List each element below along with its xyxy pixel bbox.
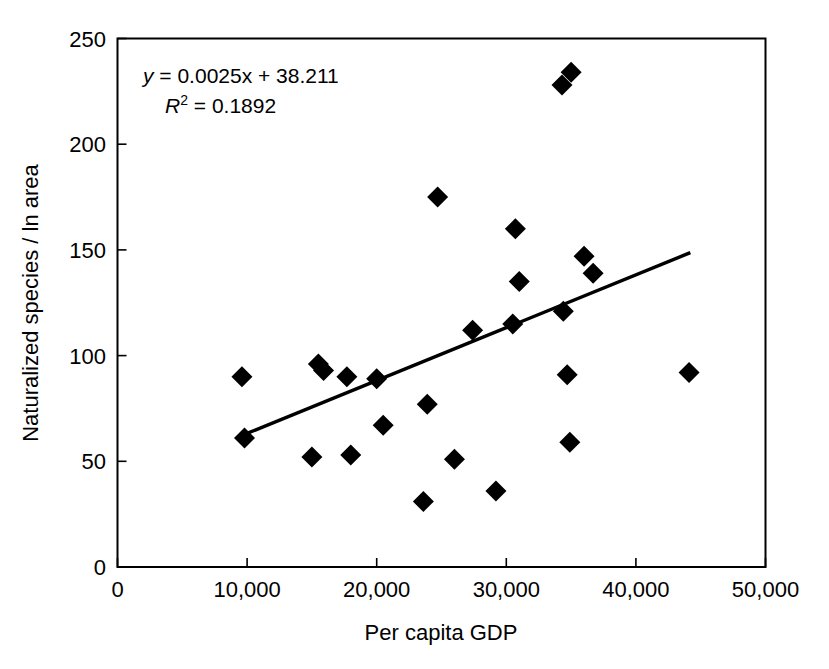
x-tick-label-40000: 40,000 — [602, 577, 669, 602]
data-point-marker — [366, 368, 387, 389]
equation-line-1: y = 0.0025x + 38.211 — [141, 64, 339, 87]
data-point-marker — [553, 301, 574, 322]
x-tick-label-50000: 50,000 — [732, 577, 799, 602]
data-point-marker — [583, 263, 604, 284]
x-tick-label-20000: 20,000 — [343, 577, 410, 602]
data-point-marker — [444, 449, 465, 470]
equation-r-symbol: R — [165, 94, 180, 117]
x-tick-label-30000: 30,000 — [473, 577, 540, 602]
equation-line-2: R2 = 0.1892 — [165, 92, 276, 117]
equation-r-superscript: 2 — [180, 92, 188, 108]
data-point-marker — [557, 364, 578, 385]
data-point-marker — [336, 366, 357, 387]
y-tick-label-150: 150 — [69, 238, 106, 263]
data-point-marker — [301, 447, 322, 468]
y-tick-label-50: 50 — [82, 449, 106, 474]
x-axis-ticks — [118, 558, 766, 567]
data-point-marker — [505, 218, 526, 239]
data-point-marker — [509, 271, 530, 292]
x-axis-title: Per capita GDP — [365, 620, 518, 645]
y-tick-label-250: 250 — [69, 27, 106, 52]
data-point-marker — [574, 246, 595, 267]
y-tick-label-0: 0 — [94, 555, 106, 580]
plot-frame — [118, 39, 766, 568]
x-tick-label-0: 0 — [111, 577, 123, 602]
y-tick-labels: 0 50 100 150 200 250 — [69, 27, 106, 580]
chart-canvas: 0 50 100 150 200 250 0 10,000 20,000 30,… — [0, 0, 829, 669]
data-point-marker — [340, 444, 361, 465]
x-tick-labels: 0 10,000 20,000 30,000 40,000 50,000 — [111, 577, 799, 602]
regression-equation-annotation: y = 0.0025x + 38.211 R2 = 0.1892 — [141, 64, 339, 117]
data-point-marker — [417, 394, 438, 415]
data-point-marker — [485, 480, 506, 501]
data-point-marker — [427, 187, 448, 208]
y-axis-title: Naturalized species / ln area — [18, 163, 43, 441]
x-tick-label-10000: 10,000 — [213, 577, 280, 602]
data-points-layer — [231, 62, 699, 512]
data-point-marker — [679, 362, 700, 383]
data-point-marker — [231, 366, 252, 387]
equation-line-2-rest: = 0.1892 — [188, 94, 276, 117]
equation-line-1-rest: = 0.0025x + 38.211 — [154, 64, 339, 87]
data-point-marker — [502, 313, 523, 334]
scatter-plot-figure: 0 50 100 150 200 250 0 10,000 20,000 30,… — [0, 0, 829, 669]
regression-trend-line — [245, 253, 690, 435]
data-point-marker — [559, 432, 580, 453]
data-point-marker — [373, 415, 394, 436]
y-tick-label-200: 200 — [69, 132, 106, 157]
y-axis-ticks — [118, 39, 127, 568]
data-point-marker — [413, 491, 434, 512]
trend-line-layer — [245, 253, 690, 435]
y-tick-label-100: 100 — [69, 344, 106, 369]
